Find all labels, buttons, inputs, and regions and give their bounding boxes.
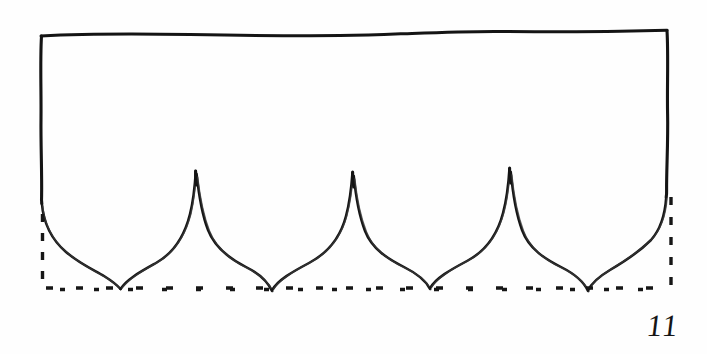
arch-1-left-limb-ghost (122, 172, 196, 288)
arch-1-right-limb (197, 174, 272, 291)
arch-1-left-limb (121, 171, 196, 289)
figure-canvas: 11 (0, 0, 707, 354)
arch-2-left-limb-ghost (274, 174, 354, 289)
frame-right-edge (666, 31, 668, 198)
frame-left-edge (41, 36, 42, 204)
arch-3-right-limb (511, 172, 588, 291)
arch-half-right-ghost-stroke (590, 199, 667, 290)
arch-half-left-ghost-stroke (43, 206, 121, 290)
ogee-arcade-drawing (0, 0, 707, 354)
figure-number: 11 (645, 308, 681, 344)
arch-3-left-limb-ghost (432, 170, 511, 287)
frame-top-edge (41, 30, 667, 36)
arch-2-right-limb (354, 176, 430, 289)
arch-half-left (42, 203, 121, 289)
